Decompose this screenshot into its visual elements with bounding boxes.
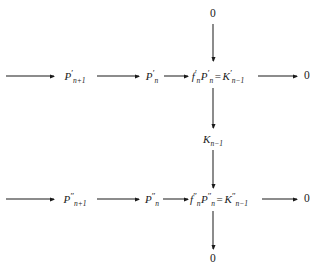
arrow-row1-pn1-to-pn: [97, 76, 139, 77]
node-row2-p-n-plus-1: P″n+1: [64, 194, 87, 205]
node-middle-k: Kn−1: [203, 134, 223, 145]
row1-f-symbol: f′n: [192, 70, 201, 82]
arrow-middle-k-to-row2: [213, 150, 214, 188]
node-row2-p-n: P″n: [145, 194, 159, 205]
node-top-zero: 0: [210, 8, 216, 20]
node-bottom-zero: 0: [210, 253, 216, 265]
node-row2-center: f″nP″n=K″n−1: [190, 194, 248, 205]
node-row1-end-zero: 0: [304, 70, 310, 82]
arrow-row2-to-bottom-zero: [213, 211, 214, 249]
node-row2-end-zero: 0: [304, 193, 310, 205]
arrow-row2-center-to-zero: [262, 199, 297, 200]
node-row1-center: f′nP′n=K′n−1: [192, 71, 245, 82]
arrow-top-zero-to-row1: [213, 24, 214, 61]
arrow-row2-incoming: [6, 199, 54, 200]
arrow-row1-center-to-zero: [258, 76, 297, 77]
arrow-row1-pn-to-center: [164, 76, 188, 77]
row2-f-symbol: f″n: [190, 193, 201, 205]
arrow-row2-pn-to-center: [163, 199, 188, 200]
node-row1-p-n: P′n: [146, 71, 158, 82]
arrow-row1-incoming: [6, 76, 54, 77]
arrow-row2-pn1-to-pn: [97, 199, 139, 200]
arrow-row1-to-middle-k: [213, 88, 214, 128]
node-row1-p-n-plus-1: P′n+1: [64, 71, 85, 82]
commutative-diagram: 0 P′n+1 P′n f′nP′n=K′n−1 0 Kn−1 P″n+1 P″…: [0, 0, 325, 274]
